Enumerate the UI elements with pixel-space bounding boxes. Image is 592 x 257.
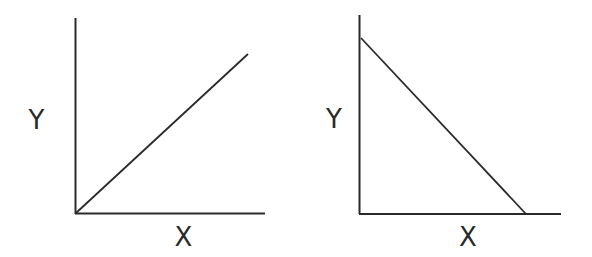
left-plot: Y X xyxy=(28,18,265,252)
left-data-line xyxy=(76,54,248,213)
figure: Y X Y X xyxy=(0,0,592,257)
left-y-label: Y xyxy=(28,105,45,135)
right-x-label: X xyxy=(459,222,477,252)
right-plot: Y X xyxy=(325,15,561,252)
left-x-label: X xyxy=(175,222,193,252)
right-data-line xyxy=(361,38,526,214)
right-y-label: Y xyxy=(325,104,342,134)
